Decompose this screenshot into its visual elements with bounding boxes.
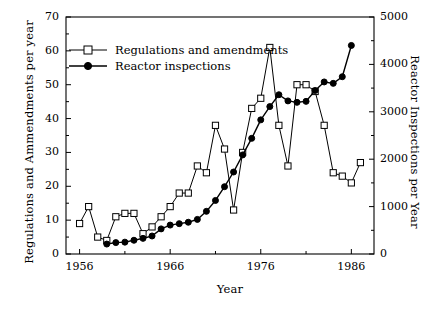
open-square-marker-icon [68, 43, 108, 57]
legend-item-regulations: Regulations and amendments [68, 42, 288, 58]
chart-legend: Regulations and amendments Reactor inspe… [68, 42, 288, 74]
legend-label-inspections: Reactor inspections [115, 59, 231, 73]
legend-label-regulations: Regulations and amendments [115, 43, 288, 57]
legend-item-inspections: Reactor inspections [68, 58, 288, 74]
filled-circle-marker-icon [68, 59, 108, 73]
chart-figure: Regulations and Ammendments per year Rea… [0, 0, 436, 311]
